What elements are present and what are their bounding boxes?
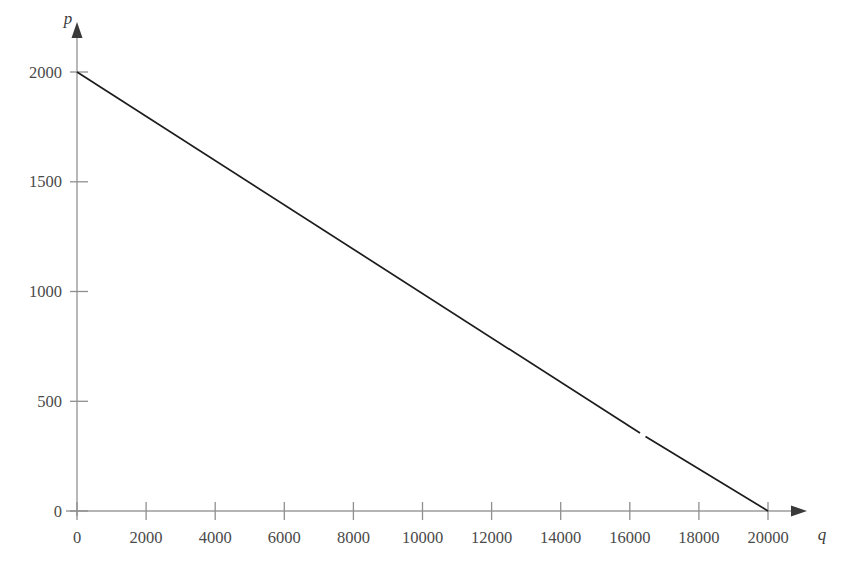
demand-line-segment-1 <box>77 72 640 433</box>
chart-canvas: 0 500 1000 1500 2000 0 2000 4000 6000 80… <box>0 0 842 587</box>
x-tick-labels: 0 2000 4000 6000 8000 10000 12000 14000 … <box>73 528 789 547</box>
x-tick-label-20000: 20000 <box>747 528 788 547</box>
y-tick-label-1500: 1500 <box>29 172 62 191</box>
y-tick-label-2000: 2000 <box>29 63 62 82</box>
y-tick-labels: 0 500 1000 1500 2000 <box>29 63 62 521</box>
x-tick-label-8000: 8000 <box>337 528 370 547</box>
x-tick-label-6000: 6000 <box>268 528 301 547</box>
chart-figure: 0 500 1000 1500 2000 0 2000 4000 6000 80… <box>0 0 842 587</box>
x-axis-label: q <box>818 525 827 544</box>
data-series-demand <box>77 72 768 511</box>
demand-line-segment-2 <box>646 437 769 512</box>
x-tick-label-14000: 14000 <box>540 528 581 547</box>
x-axis-arrow-icon <box>791 506 807 517</box>
x-tick-label-0: 0 <box>73 528 81 547</box>
y-tick-marks <box>70 72 88 511</box>
y-tick-label-0: 0 <box>54 502 62 521</box>
y-axis-arrow-icon <box>72 22 83 38</box>
x-tick-label-10000: 10000 <box>402 528 443 547</box>
x-tick-label-4000: 4000 <box>199 528 232 547</box>
x-tick-label-16000: 16000 <box>609 528 650 547</box>
y-tick-label-1000: 1000 <box>29 282 62 301</box>
y-tick-label-500: 500 <box>37 392 62 411</box>
x-tick-label-18000: 18000 <box>678 528 719 547</box>
y-axis <box>72 22 83 516</box>
x-tick-label-2000: 2000 <box>130 528 163 547</box>
x-axis <box>66 506 807 517</box>
x-tick-label-12000: 12000 <box>471 528 512 547</box>
y-axis-label: p <box>63 9 73 28</box>
